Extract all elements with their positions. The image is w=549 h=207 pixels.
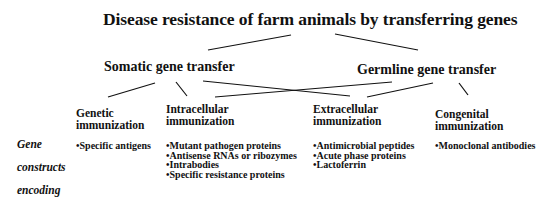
edge-germline-intracellular (215, 82, 392, 97)
node-label-line1: Congenital (435, 108, 503, 120)
node-label-line2: immunization (435, 120, 503, 132)
edge-germline-congenital (459, 83, 468, 95)
node-genetic-immunization: Genetic immunization (76, 107, 144, 131)
node-label-line2: immunization (166, 115, 234, 127)
edge-title-germline (335, 34, 418, 50)
list-item: Monoclonal antibodies (435, 141, 535, 151)
node-germline-gene-transfer: Germline gene transfer (357, 62, 496, 78)
edge-somatic-extracellular (203, 81, 350, 96)
edge-somatic-intracellular (176, 82, 187, 96)
edge-germline-extracellular (367, 83, 433, 97)
side-label-constructs: constructs (17, 161, 66, 173)
congenital-items-list: Monoclonal antibodies (435, 141, 535, 151)
node-label-line1: Intracellular (166, 103, 234, 115)
node-congenital-immunization: Congenital immunization (435, 108, 503, 132)
genetic-items-list: Specific antigens (76, 141, 151, 151)
edge-title-somatic (208, 35, 291, 50)
node-label-line1: Genetic (76, 107, 144, 119)
node-somatic-gene-transfer: Somatic gene transfer (104, 59, 235, 75)
node-label-line2: immunization (313, 115, 381, 127)
list-item: Specific resistance proteins (166, 170, 297, 180)
node-intracellular-immunization: Intracellular immunization (166, 103, 234, 127)
list-item: Specific antigens (76, 141, 151, 151)
node-label-line1: Extracellular (313, 103, 381, 115)
diagram-title: Disease resistance of farm animals by tr… (103, 9, 518, 30)
node-extracellular-immunization: Extracellular immunization (313, 103, 381, 127)
node-label-line2: immunization (76, 119, 144, 131)
extracellular-items-list: Antimicrobial peptides Acute phase prote… (313, 141, 414, 170)
edge-somatic-genetic (108, 83, 155, 97)
side-label-gene: Gene (17, 138, 42, 150)
side-label-encoding: encoding (17, 184, 60, 196)
intracellular-items-list: Mutant pathogen proteins Antisense RNAs … (166, 141, 297, 179)
list-item: Lactoferrin (313, 160, 414, 170)
